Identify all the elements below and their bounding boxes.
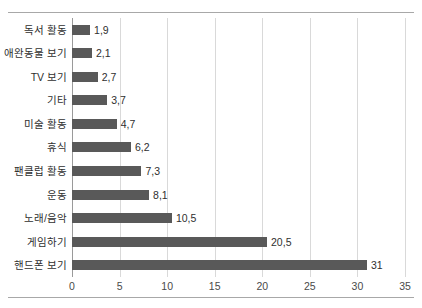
category-label: 기타 <box>47 95 67 106</box>
bar <box>72 142 131 152</box>
bar-row: 미술 활동4,7 <box>72 112 405 136</box>
bar <box>72 25 90 35</box>
x-tick-label: 20 <box>256 281 268 292</box>
bar-value-label: 31 <box>371 260 383 271</box>
bar-row: 기타3,7 <box>72 89 405 113</box>
bar-value-label: 2,1 <box>96 48 111 59</box>
category-label: 노래/음악 <box>24 213 67 224</box>
bar <box>72 166 141 176</box>
bar-row: 노래/음악10,5 <box>72 206 405 230</box>
bar <box>72 48 92 58</box>
bar-value-label: 1,9 <box>94 25 109 36</box>
category-label: 게임하기 <box>27 236 67 247</box>
category-label: 독서 활동 <box>24 25 67 36</box>
bar-row: 게임하기20,5 <box>72 230 405 254</box>
x-tick-label: 0 <box>69 281 75 292</box>
top-divider-rule <box>8 12 414 13</box>
x-tick-label: 35 <box>399 281 411 292</box>
bar-row: 팬클럽 활동7,3 <box>72 159 405 183</box>
category-label: 팬클럽 활동 <box>14 166 67 177</box>
x-tick-label: 25 <box>304 281 316 292</box>
bottom-divider-rule <box>8 297 414 298</box>
x-tick-label: 5 <box>117 281 123 292</box>
category-label: 운동 <box>47 189 67 200</box>
bar <box>72 260 367 270</box>
bar-value-label: 8,1 <box>153 189 168 200</box>
gridline-35 <box>405 18 406 277</box>
bar <box>72 72 98 82</box>
bar-value-label: 4,7 <box>121 119 136 130</box>
category-label: 애완동물 보기 <box>4 48 67 59</box>
category-label: 핸드폰 보기 <box>14 260 67 271</box>
bar-row: TV 보기2,7 <box>72 65 405 89</box>
x-tick-label: 10 <box>161 281 173 292</box>
category-label: TV 보기 <box>31 72 67 83</box>
bar-row: 애완동물 보기2,1 <box>72 42 405 66</box>
bar-row: 휴식6,2 <box>72 136 405 160</box>
bar-value-label: 2,7 <box>102 72 117 83</box>
category-label: 휴식 <box>47 142 67 153</box>
bar-row: 운동8,1 <box>72 183 405 207</box>
bar <box>72 237 267 247</box>
category-label: 미술 활동 <box>24 119 67 130</box>
plot-area: 독서 활동1,9애완동물 보기2,1TV 보기2,7기타3,7미술 활동4,7휴… <box>72 18 405 277</box>
x-tick-label: 30 <box>352 281 364 292</box>
bar <box>72 95 107 105</box>
bar-value-label: 20,5 <box>271 236 291 247</box>
x-tick-label: 15 <box>209 281 221 292</box>
bar-chart-figure: 독서 활동1,9애완동물 보기2,1TV 보기2,7기타3,7미술 활동4,7휴… <box>0 0 422 308</box>
bar-row: 핸드폰 보기31 <box>72 253 405 277</box>
bar-value-label: 6,2 <box>135 142 150 153</box>
bar-row: 독서 활동1,9 <box>72 18 405 42</box>
bar-value-label: 3,7 <box>111 95 126 106</box>
bar <box>72 190 149 200</box>
bar <box>72 119 117 129</box>
bar-value-label: 7,3 <box>145 166 160 177</box>
bar-value-label: 10,5 <box>176 213 196 224</box>
bar <box>72 213 172 223</box>
